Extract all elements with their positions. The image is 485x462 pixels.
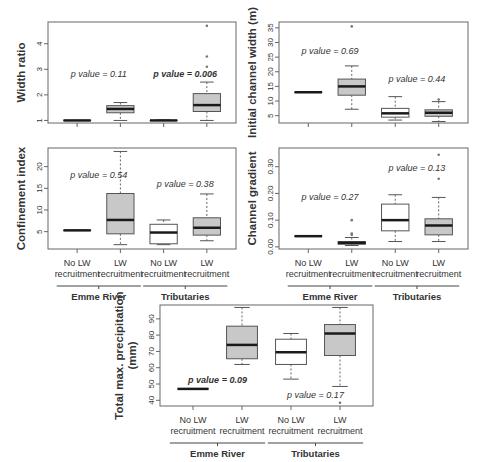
x-group-label: No LW xyxy=(180,415,207,425)
x-group-label: No LW xyxy=(150,258,177,268)
x-group-label: LW xyxy=(345,258,358,268)
p-value-annotation: p value = 0.17 xyxy=(286,390,345,400)
x-group-label: No LW xyxy=(295,258,322,268)
box-no-lw-tributaries xyxy=(150,220,177,245)
y-tick-label: 3 xyxy=(35,67,44,72)
y-tick-label: 80 xyxy=(147,330,156,339)
x-group-label: recruitment xyxy=(373,269,419,279)
y-axis-label: Confinement index xyxy=(15,146,27,250)
y-tick-label: 10 xyxy=(35,205,44,214)
y-tick-label: 35 xyxy=(266,23,275,32)
box-lw-emme xyxy=(227,307,258,364)
y-axis-label: Initial channel width (m) xyxy=(246,7,258,138)
panel-channel-gradient: 0.000.100.200.30Channel gradientp value … xyxy=(246,148,468,302)
y-axis-label: Width ratio xyxy=(15,43,27,103)
y-tick-label: 0.00 xyxy=(266,239,275,255)
y-tick-label: 2 xyxy=(35,92,44,97)
p-value-annotation: p value = 0.54 xyxy=(69,170,127,180)
box-no-lw-tributaries xyxy=(382,195,409,242)
y-tick-label: 70 xyxy=(147,346,156,355)
x-group-label: No LW xyxy=(64,258,91,268)
p-value-annotation: p value = 0.09 xyxy=(187,375,247,385)
box-no-lw-tributaries xyxy=(276,334,307,380)
outlier-point xyxy=(350,219,353,222)
x-group-label: LW xyxy=(200,258,213,268)
y-tick-label: 40 xyxy=(147,395,156,404)
x-group-label: recruitment xyxy=(286,269,332,279)
panel-initial-channel-width: 5101520253035Initial channel width (m)p … xyxy=(246,7,468,138)
y-axis-label: (mm) xyxy=(126,341,138,369)
y-tick-label: 25 xyxy=(266,52,275,61)
outlier-point xyxy=(350,25,353,28)
p-value-annotation: p value = 0.44 xyxy=(388,74,446,84)
y-tick-label: 50 xyxy=(147,379,156,388)
y-tick-label: 60 xyxy=(147,363,156,372)
site-label: Tributaries xyxy=(161,291,210,302)
y-tick-label: 20 xyxy=(35,162,44,171)
outlier-point xyxy=(437,177,440,180)
site-label: Tributaries xyxy=(291,448,340,459)
p-value-annotation: p value = 0.69 xyxy=(301,46,359,56)
outlier-point xyxy=(206,25,209,28)
y-tick-label: 5 xyxy=(35,229,44,234)
y-axis-label: Total max. precipitation xyxy=(113,291,125,419)
x-group-label: recruitment xyxy=(141,269,187,279)
y-tick-label: 0.20 xyxy=(266,185,275,201)
box-lw-emme xyxy=(107,103,134,121)
y-tick-label: 15 xyxy=(266,81,275,90)
y-tick-label: 0.10 xyxy=(266,212,275,228)
x-group-label: LW xyxy=(114,258,127,268)
site-label: Tributaries xyxy=(393,291,442,302)
y-tick-label: 1 xyxy=(35,118,44,123)
x-group-label: No LW xyxy=(278,415,305,425)
outlier-point xyxy=(339,401,342,404)
outlier-point xyxy=(437,153,440,156)
x-group-label: recruitment xyxy=(219,426,265,436)
box-lw-emme xyxy=(107,151,134,244)
x-group-label: recruitment xyxy=(329,269,375,279)
y-tick-label: 30 xyxy=(266,37,275,46)
p-value-annotation: p value = 0.13 xyxy=(388,163,446,173)
y-axis-label: Channel gradient xyxy=(246,151,258,245)
x-group-label: recruitment xyxy=(416,269,462,279)
box-lw-emme xyxy=(338,219,365,246)
outlier-point xyxy=(350,232,353,235)
x-group-label: recruitment xyxy=(184,269,230,279)
panel-confinement-index: 5101520Confinement indexp value = 0.54p … xyxy=(15,146,236,302)
y-tick-label: 5 xyxy=(266,113,275,118)
box-lw-tributaries xyxy=(425,98,452,121)
panel-width-ratio: 1234Width ratiop value = 0.11p value = 0… xyxy=(15,22,236,127)
site-label: Emme River xyxy=(190,448,245,459)
box-no-lw-tributaries xyxy=(150,120,177,121)
x-group-label: LW xyxy=(432,258,445,268)
box-lw-emme xyxy=(338,25,365,109)
x-group-label: No LW xyxy=(382,258,409,268)
p-value-annotation: p value = 0.27 xyxy=(301,192,360,202)
x-group-label: recruitment xyxy=(171,426,217,436)
y-tick-label: 10 xyxy=(266,96,275,105)
x-group-label: recruitment xyxy=(268,426,314,436)
y-tick-label: 90 xyxy=(147,314,156,323)
outlier-point xyxy=(206,65,209,68)
x-group-label: LW xyxy=(236,415,249,425)
p-value-annotation: p value = 0.006 xyxy=(152,69,218,79)
box-lw-tributaries xyxy=(193,194,220,241)
p-value-annotation: p value = 0.38 xyxy=(156,179,214,189)
x-group-label: recruitment xyxy=(55,269,101,279)
x-group-label: LW xyxy=(334,415,347,425)
outlier-point xyxy=(437,98,440,101)
y-tick-label: 0.30 xyxy=(266,158,275,174)
boxplot-figure: 1234Width ratiop value = 0.11p value = 0… xyxy=(0,0,485,462)
box-no-lw-tributaries xyxy=(382,97,409,120)
x-group-label: recruitment xyxy=(98,269,144,279)
y-tick-label: 4 xyxy=(35,41,44,46)
y-tick-label: 20 xyxy=(266,67,275,76)
plot-frame xyxy=(279,22,468,123)
p-value-annotation: p value = 0.11 xyxy=(70,69,127,79)
panel-total-max-precipitation: 405060708090Total max. precipitation(mm)… xyxy=(113,291,373,459)
outlier-point xyxy=(206,55,209,58)
y-tick-label: 15 xyxy=(35,183,44,192)
x-group-label: recruitment xyxy=(317,426,363,436)
site-label: Emme River xyxy=(303,291,358,302)
